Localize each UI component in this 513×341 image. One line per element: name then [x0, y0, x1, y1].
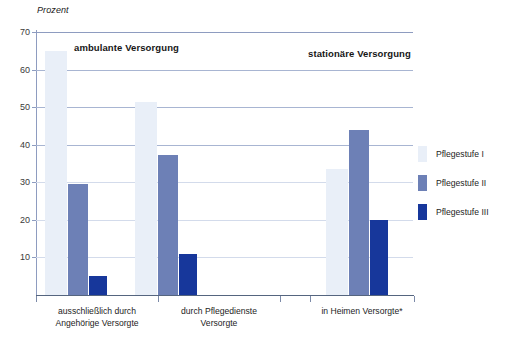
- legend-label: Pflegestufe I: [436, 149, 484, 159]
- category-label-line: Versorgte: [158, 318, 280, 330]
- legend-swatch-pflegestufe-2-icon: [418, 175, 427, 191]
- legend-label: Pflegestufe II: [436, 178, 486, 188]
- category-label-line: ausschließlich durch: [36, 306, 158, 318]
- bar-group1-series2: [68, 184, 88, 295]
- bar-group1-series3: [89, 276, 107, 295]
- category-label-line: in Heimen Versorgte*: [310, 306, 414, 318]
- y-tick-mark-20: [32, 220, 36, 221]
- category-label-2: durch PflegediensteVersorgte: [158, 306, 280, 329]
- bar-group3-series2: [349, 130, 369, 295]
- category-label-line: durch Pflegedienste: [158, 306, 280, 318]
- y-tick-label-70: 70: [20, 27, 30, 37]
- gridline-50: 50: [36, 107, 413, 108]
- legend-item[interactable]: Pflegestufe I: [418, 139, 510, 168]
- y-tick-mark-30: [32, 182, 36, 183]
- category-tick-4: [414, 296, 415, 302]
- y-tick-mark-40: [32, 145, 36, 146]
- y-tick-label-10: 10: [20, 252, 30, 262]
- y-tick-label-40: 40: [20, 140, 30, 150]
- legend-label: Pflegestufe III: [436, 207, 489, 217]
- group-caption-stationaere-versorgung: stationäre Versorgung: [308, 48, 411, 59]
- y-tick-mark-50: [32, 107, 36, 108]
- y-tick-label-50: 50: [20, 102, 30, 112]
- legend-item[interactable]: Pflegestufe III: [418, 197, 510, 226]
- y-tick-mark-70: [32, 32, 36, 33]
- y-tick-label-30: 30: [20, 177, 30, 187]
- category-label-line: Angehörige Versorgte: [36, 318, 158, 330]
- bar-group1-series1: [45, 51, 67, 295]
- category-tick-3: [310, 296, 311, 302]
- plot-area: 70605040302010: [36, 32, 413, 295]
- gridline-70: 70: [36, 32, 413, 33]
- legend-swatch-pflegestufe-1-icon: [418, 146, 427, 162]
- legend-item[interactable]: Pflegestufe II: [418, 168, 510, 197]
- legend-swatch-pflegestufe-3-icon: [418, 204, 427, 220]
- bar-group2-series2: [158, 155, 178, 295]
- category-tick-1: [158, 296, 159, 302]
- bar-group2-series3: [179, 254, 197, 295]
- bar-group3-series3: [370, 220, 388, 295]
- category-tick-0: [36, 296, 37, 302]
- y-tick-mark-60: [32, 70, 36, 71]
- bar-group2-series1: [135, 102, 157, 295]
- chart-legend: Pflegestufe I Pflegestufe II Pflegestufe…: [418, 139, 510, 226]
- y-tick-label-20: 20: [20, 215, 30, 225]
- group-caption-ambulante-versorgung: ambulante Versorgung: [74, 42, 179, 53]
- gridline-60: 60: [36, 70, 413, 71]
- category-label-3: in Heimen Versorgte*: [310, 306, 414, 318]
- category-tick-2: [280, 296, 281, 302]
- bar-group3-series1: [326, 169, 348, 295]
- category-axis: ausschließlich durchAngehörige Versorgte…: [36, 296, 414, 340]
- y-tick-label-60: 60: [20, 65, 30, 75]
- y-tick-mark-10: [32, 257, 36, 258]
- category-label-1: ausschließlich durchAngehörige Versorgte: [36, 306, 158, 329]
- y-axis-unit-label: Prozent: [37, 5, 69, 15]
